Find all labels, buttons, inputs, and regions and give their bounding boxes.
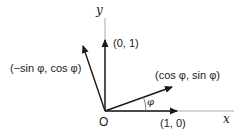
- vector-rotated-e2: [83, 46, 105, 111]
- angle-arc: [144, 97, 146, 111]
- e2-label: (0, 1): [113, 38, 139, 49]
- e1-label: (1, 0): [160, 118, 186, 129]
- rotated-e2-label: (−sin φ, cos φ): [10, 63, 81, 74]
- angle-label: φ: [147, 97, 154, 107]
- y-axis-label: y: [96, 4, 103, 16]
- x-axis-label: x: [223, 113, 230, 125]
- vector-rotated-e1: [105, 87, 172, 111]
- origin-label: O: [99, 116, 108, 128]
- rotated-e1-label: (cos φ, sin φ): [155, 70, 220, 81]
